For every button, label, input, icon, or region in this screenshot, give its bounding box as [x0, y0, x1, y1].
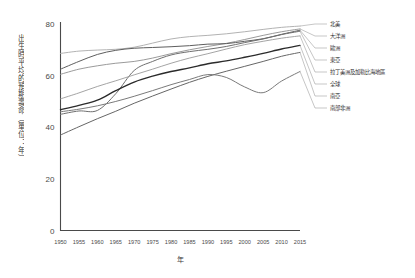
series-line [61, 52, 301, 135]
legend-leader-lines [300, 24, 327, 108]
x-tick-label: 1960 [91, 239, 103, 245]
legend-label: 南部非洲 [330, 104, 350, 112]
y-tick-label: 40 [46, 123, 55, 132]
legend-leader-line [300, 24, 327, 26]
legend-leader-line [300, 52, 327, 96]
series-line [61, 36, 301, 99]
x-axis-tick-group: 1950195519601965197019751980198519901995… [54, 239, 306, 245]
x-tick-label: 1985 [183, 239, 195, 245]
x-tick-label: 1980 [165, 239, 177, 245]
x-tick-label: 2010 [275, 239, 287, 245]
legend-leader-line [300, 36, 327, 72]
legend-label: 歐洲 [330, 44, 340, 52]
series-line [61, 31, 301, 114]
y-tick-label: 60 [46, 72, 55, 81]
x-tick-label: 2000 [239, 239, 251, 245]
x-tick-label: 1970 [128, 239, 140, 245]
y-tick-label: 20 [46, 175, 55, 184]
legend-leader-line [300, 72, 327, 109]
chart-canvas: 020406080 195019551960196519701975198019… [0, 0, 415, 278]
legend-label: 南亞 [330, 92, 341, 99]
x-tick-label: 1990 [202, 239, 214, 245]
legend-label: 拉丁美洲及加勒比海地區 [330, 68, 386, 76]
x-tick-label: 1950 [54, 239, 66, 245]
x-tick-label: 1995 [220, 239, 232, 245]
legend-label: 東亞 [330, 56, 341, 64]
y-tick-label: 0 [50, 227, 55, 236]
legend-label: 北美 [330, 20, 341, 28]
legend-group: 北美大洋洲歐洲東亞拉丁美洲及加勒比海地區全球南亞南部非洲 [330, 20, 386, 112]
series-line [61, 72, 301, 112]
y-axis-tick-group: 020406080 [46, 20, 55, 236]
x-tick-label: 1955 [73, 239, 85, 245]
y-axis-title: 出生時平均的預期壽命（單位：年） [8, 34, 24, 204]
life-expectancy-chart-figure: 020406080 195019551960196519701975198019… [0, 0, 415, 278]
x-tick-label: 1965 [110, 239, 122, 245]
series-group [61, 26, 301, 135]
series-line [61, 29, 301, 74]
x-tick-label: 2015 [294, 239, 306, 245]
x-tick-label: 1975 [146, 239, 158, 245]
x-axis-title: 年 [177, 255, 184, 264]
legend-label: 大洋洲 [330, 32, 345, 40]
x-tick-label: 2005 [257, 239, 269, 245]
series-line [61, 26, 301, 53]
legend-label: 全球 [330, 80, 341, 87]
y-tick-label: 80 [46, 20, 55, 29]
